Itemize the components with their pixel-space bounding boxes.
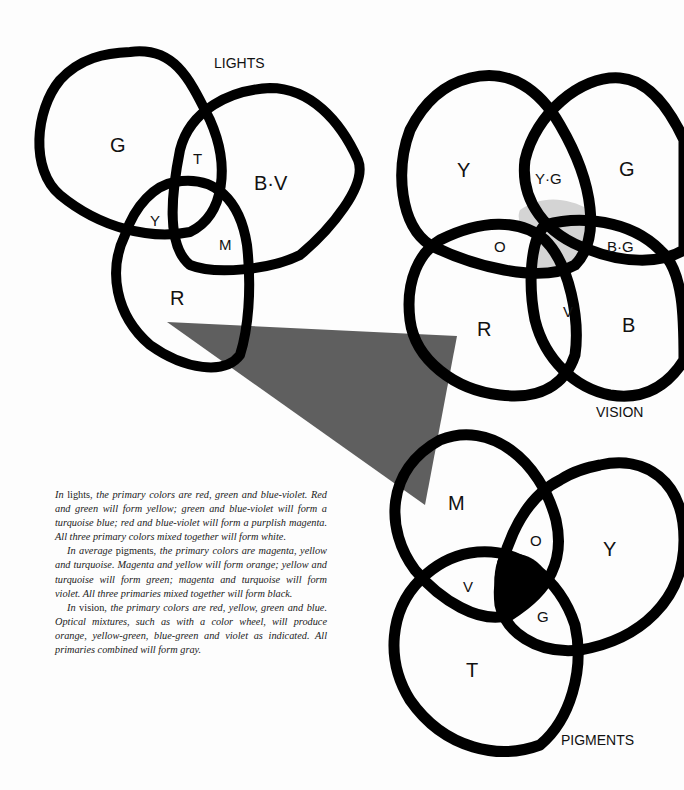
pigments-magenta-loop	[395, 435, 559, 617]
vision-title: VISION	[596, 404, 643, 420]
lights-label-g: G	[110, 134, 126, 156]
lights-label-y: Y	[150, 212, 160, 229]
caption-paragraph-pigments: In average pigments, the primary colors …	[55, 544, 327, 600]
pigments-label-o: O	[530, 532, 542, 549]
vision-label-g: G	[619, 158, 635, 180]
pigments-diagram	[394, 435, 684, 752]
caption-text: In lights, the primary colors are red, g…	[55, 488, 327, 657]
lights-label-m: M	[219, 236, 232, 253]
vision-label-b: B	[622, 314, 635, 336]
lights-label-bv: B·V	[254, 172, 288, 194]
pigments-title: PIGMENTS	[561, 732, 634, 748]
caption-paragraph-vision: In vision, the primary colors are red, y…	[55, 601, 327, 657]
vision-red-loop	[409, 224, 576, 396]
book-page: LIGHTS G T B·V Y M R Y Y·G G O B·G V R B…	[0, 0, 684, 790]
lights-diagram	[39, 51, 359, 367]
pigments-label-v: V	[463, 578, 473, 595]
pigments-label-y: Y	[603, 538, 616, 560]
vision-label-o: O	[494, 238, 506, 255]
lights-green-loop	[39, 51, 221, 234]
pigments-label-t: T	[466, 659, 478, 681]
caption-paragraph-lights: In lights, the primary colors are red, g…	[55, 488, 327, 544]
pigments-label-g: G	[537, 608, 549, 625]
vision-label-yg: Y·G	[535, 170, 562, 187]
vision-label-r: R	[477, 318, 491, 340]
lights-label-r: R	[170, 287, 184, 309]
lights-label-t: T	[193, 150, 202, 167]
vision-label-v: V	[563, 303, 573, 320]
color-mixing-diagrams: LIGHTS G T B·V Y M R Y Y·G G O B·G V R B…	[0, 0, 684, 790]
lights-title: LIGHTS	[214, 55, 265, 71]
gray-triangle	[167, 322, 457, 505]
vision-label-y: Y	[457, 159, 470, 181]
vision-label-bg: B·G	[607, 238, 634, 255]
pigments-label-m: M	[448, 492, 465, 514]
